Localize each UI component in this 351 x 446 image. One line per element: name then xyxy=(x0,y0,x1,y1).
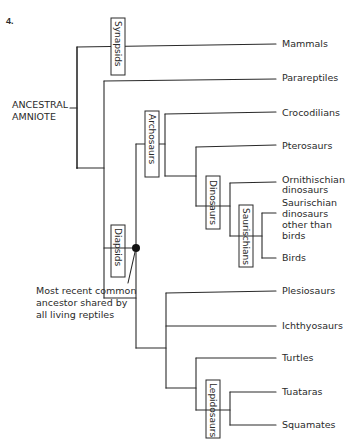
taxon-squamates: Squamates xyxy=(282,419,336,430)
branch-mammals xyxy=(77,44,276,47)
svg-text:dinosaurs: dinosaurs xyxy=(282,184,328,195)
svg-text:Saurischians: Saurischians xyxy=(241,208,251,265)
annotation-pointer xyxy=(128,252,135,283)
branch-ornithischians xyxy=(230,182,276,183)
svg-text:Archosaurs: Archosaurs xyxy=(147,114,157,164)
taxon-saurischian: Saurischian xyxy=(282,197,337,208)
taxon-ichthyosaurs: Ichthyosaurs xyxy=(282,320,343,331)
taxon-crocodilians: Crocodilians xyxy=(282,107,340,118)
clade-archosaurs: Archosaurs xyxy=(145,111,159,177)
taxon-tuataras: Tuataras xyxy=(281,386,322,397)
branch-plesiosaurs xyxy=(166,291,276,293)
svg-text:other than: other than xyxy=(282,219,332,230)
taxon-parareptiles: Parareptiles xyxy=(282,72,338,83)
taxon-turtles: Turtles xyxy=(281,352,313,363)
figure-number: 4. xyxy=(6,16,14,26)
svg-text:dinosaurs: dinosaurs xyxy=(282,208,328,219)
root-label-line2: AMNIOTE xyxy=(12,111,56,122)
branch-pterosaurs xyxy=(196,145,276,147)
svg-text:birds: birds xyxy=(282,230,305,241)
svg-text:Synapsids: Synapsids xyxy=(113,21,123,67)
clade-synapsids: Synapsids xyxy=(111,18,125,75)
svg-text:Diapsids: Diapsids xyxy=(113,228,123,267)
taxon-pterosaurs: Pterosaurs xyxy=(282,140,333,151)
clade-dinosaurs: Dinosaurs xyxy=(206,176,220,229)
taxon-mammals: Mammals xyxy=(282,38,328,49)
svg-text:all living reptiles: all living reptiles xyxy=(36,309,114,320)
svg-text:Most recent common: Most recent common xyxy=(36,285,136,296)
svg-text:Dinosaurs: Dinosaurs xyxy=(208,180,218,225)
root-node: ANCESTRAL AMNIOTE xyxy=(12,99,77,122)
clade-diapsids: Diapsids xyxy=(111,225,125,277)
annotation-common-ancestor: Most recent common ancestor shared by al… xyxy=(36,285,136,320)
branch-crocodilians xyxy=(165,112,276,114)
clade-lepidosaurs: Lepidosaurs xyxy=(206,380,220,438)
branch-parareptiles xyxy=(104,79,276,81)
taxon-plesiosaurs: Plesiosaurs xyxy=(282,285,335,296)
root-label-line1: ANCESTRAL xyxy=(12,99,69,110)
svg-text:ancestor shared by: ancestor shared by xyxy=(36,297,128,308)
phylogenetic-tree: 4. ANCESTRAL AMNIOTE Mammals Synapsids P… xyxy=(0,0,351,446)
common-ancestor-dot xyxy=(132,244,140,252)
taxon-birds: Birds xyxy=(282,252,306,263)
